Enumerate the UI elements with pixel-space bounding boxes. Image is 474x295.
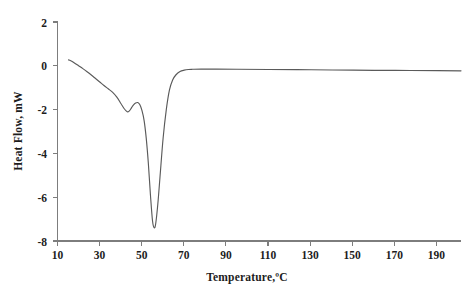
x-tick-label-9: 190 bbox=[428, 249, 446, 261]
y-axis-ticks bbox=[53, 22, 58, 241]
y-axis-tick-labels: 2 0 -2 -4 -6 -8 bbox=[37, 17, 47, 248]
chart-canvas: 2 0 -2 -4 -6 -8 10 30 50 70 90 1 bbox=[0, 0, 474, 295]
x-tick-label-2: 50 bbox=[136, 249, 148, 261]
y-axis-title: Heat Flow, mW bbox=[12, 91, 24, 171]
heat-flow-curve bbox=[68, 60, 461, 228]
x-axis-title: Temperature,ºC bbox=[206, 271, 288, 284]
x-tick-label-7: 150 bbox=[344, 249, 362, 261]
x-tick-label-8: 170 bbox=[386, 249, 404, 261]
x-axis-tick-labels: 10 30 50 70 90 110 130 150 170 190 bbox=[52, 249, 446, 261]
y-tick-label-4: -6 bbox=[37, 192, 47, 204]
dsc-thermogram-figure: 2 0 -2 -4 -6 -8 10 30 50 70 90 1 bbox=[0, 0, 474, 295]
x-tick-label-4: 90 bbox=[220, 249, 232, 261]
x-axis-ticks bbox=[58, 241, 437, 246]
x-tick-label-0: 10 bbox=[52, 249, 64, 261]
x-tick-label-6: 130 bbox=[301, 249, 319, 261]
x-tick-label-3: 70 bbox=[178, 249, 190, 261]
y-tick-label-3: -4 bbox=[37, 148, 47, 160]
y-tick-label-1: 0 bbox=[41, 60, 47, 72]
y-tick-label-0: 2 bbox=[41, 17, 47, 29]
y-tick-label-2: -2 bbox=[37, 104, 47, 116]
x-tick-label-5: 110 bbox=[260, 249, 277, 261]
x-tick-label-1: 30 bbox=[94, 249, 106, 261]
y-tick-label-5: -8 bbox=[37, 236, 47, 248]
